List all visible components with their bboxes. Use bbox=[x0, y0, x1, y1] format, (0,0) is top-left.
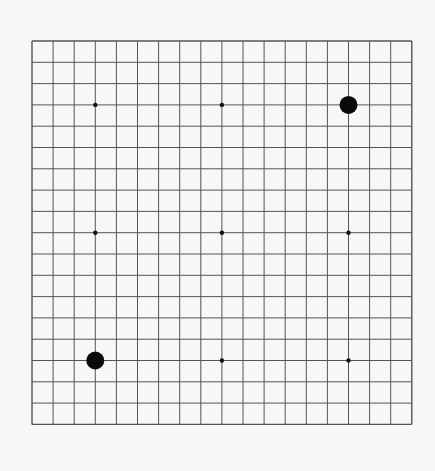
go-board[interactable] bbox=[0, 0, 435, 471]
star-point bbox=[346, 231, 350, 235]
star-point bbox=[220, 231, 224, 235]
star-point bbox=[220, 358, 224, 362]
star-point bbox=[346, 358, 350, 362]
star-point bbox=[93, 231, 97, 235]
black-stone[interactable] bbox=[340, 96, 358, 114]
black-stone[interactable] bbox=[86, 352, 104, 370]
star-point bbox=[93, 103, 97, 107]
star-point bbox=[220, 103, 224, 107]
